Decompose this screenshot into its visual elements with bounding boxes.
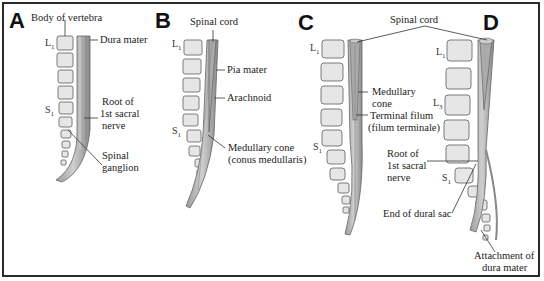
label-spinal-cord-cd: Spinal cord [390,14,438,26]
vertebra-label-l3: L3 [433,97,443,113]
panel-b-vertebrae [183,40,203,176]
label-terminal-filum-line2: (filum terminale) [368,122,440,134]
vertebra-label-l1: L1 [436,46,446,62]
label-medullary-cone-line2: (conus medullaris) [228,154,306,166]
label-attachment-line1: Attachment of [474,250,534,262]
vertebra-label-l1: L1 [310,42,320,58]
panel-letter-d: D [483,12,499,34]
label-root-line2: 1st sacral [387,160,426,172]
panel-letter-b: B [155,10,171,32]
panel-letter-a: A [9,10,25,32]
vertebra-label-s1: S1 [313,141,322,157]
label-attachment-line2: dura mater [482,262,527,274]
label-spinal-cord-b: Spinal cord [190,16,238,28]
label-body-of-vertebra: Body of vertebra [31,12,102,24]
label-ganglion-line1: Spinal [102,150,129,162]
panel-c-cord [345,39,362,235]
label-root-line2: 1st sacral [100,108,139,120]
label-root-line1: Root of [102,96,134,108]
spinal-anatomy-illustration [0,0,544,281]
panel-a-vertebrae [57,36,73,165]
vertebra-label-l1: L1 [45,37,55,53]
label-root-line3: nerve [387,172,410,184]
label-medullary-cone-line1: Medullary [372,86,416,98]
vertebra-label-l1: L1 [172,38,182,54]
label-dura-mater: Dura mater [100,34,148,46]
label-root-line3: nerve [102,120,125,132]
label-medullary-cone-line2: cone [372,98,392,110]
vertebra-label-s1: S1 [45,104,54,120]
label-pia-mater: Pia mater [227,64,267,76]
label-end-of-dural-sac: End of dural sac [383,208,452,220]
panel-letter-c: C [298,12,314,34]
label-root-line1: Root of [387,148,419,160]
label-ganglion-line2: ganglion [102,162,139,174]
vertebra-label-s1: S1 [442,172,451,188]
panel-c-vertebrae [321,40,350,213]
label-arachnoid: Arachnoid [227,92,271,104]
label-medullary-cone-line1: Medullary cone [228,142,294,154]
label-terminal-filum-line1: Terminal filum [370,110,433,122]
vertebra-label-s1: S1 [172,125,181,141]
